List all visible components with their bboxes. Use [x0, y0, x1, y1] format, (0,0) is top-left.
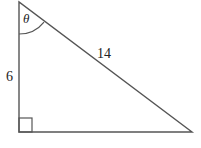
- angle-label: θ: [23, 11, 30, 26]
- hypotenuse-label: 14: [97, 46, 111, 61]
- triangle-outline: [19, 2, 192, 132]
- triangle-diagram: θ 6 14: [0, 0, 201, 148]
- vertical-side-label: 6: [6, 69, 13, 84]
- triangle-svg: θ 6 14: [0, 0, 201, 148]
- right-angle-marker: [19, 118, 32, 132]
